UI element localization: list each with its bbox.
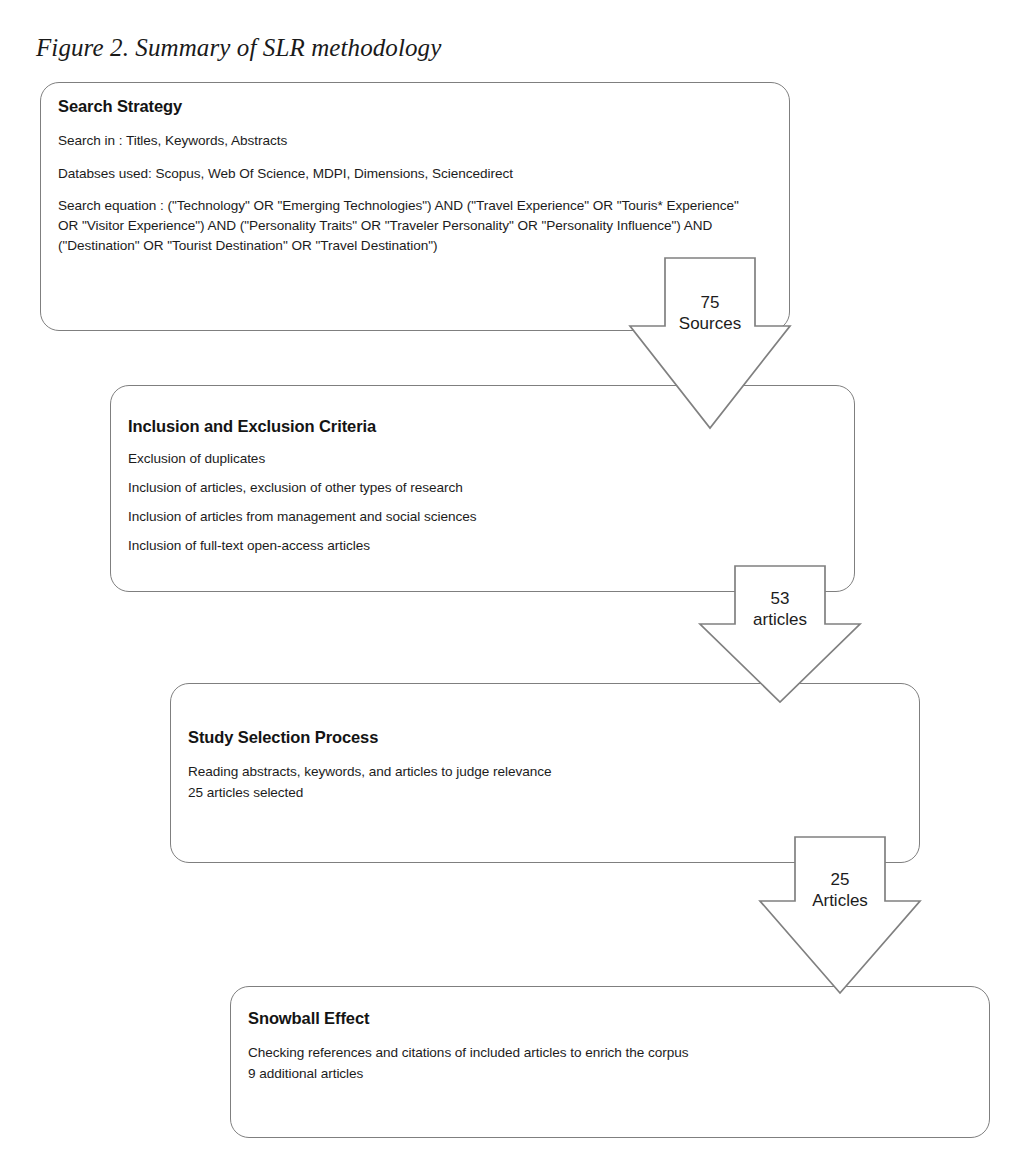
node-line-25-articles-selected: 25 articles selected <box>188 782 888 803</box>
node-snowball-effect: Snowball Effect Checking references and … <box>230 986 990 1138</box>
down-arrow-icon <box>760 837 920 995</box>
node-line-9-additional-articles: 9 additional articles <box>248 1063 968 1084</box>
node-study-selection-process: Study Selection Process Reading abstract… <box>170 683 920 863</box>
arrow-53-articles: 53 articles <box>700 566 860 704</box>
arrow-75-sources: 75 Sources <box>630 258 790 430</box>
node-line-inclusion-fulltext: Inclusion of full-text open-access artic… <box>128 538 828 553</box>
node-line-search-in: Search in : Titles, Keywords, Abstracts <box>58 131 758 151</box>
node-line-inclusion-management: Inclusion of articles from management an… <box>128 509 828 524</box>
down-arrow-icon <box>700 566 860 704</box>
node-title-study-selection-process: Study Selection Process <box>188 728 888 747</box>
node-line-inclusion-articles: Inclusion of articles, exclusion of othe… <box>128 480 828 495</box>
arrow-25-articles: 25 Articles <box>760 837 920 995</box>
figure-title: Figure 2. Summary of SLR methodology <box>36 33 441 63</box>
node-title-snowball-effect: Snowball Effect <box>248 1009 968 1028</box>
node-line-exclusion-duplicates: Exclusion of duplicates <box>128 451 828 466</box>
node-title-search-strategy: Search Strategy <box>58 97 758 116</box>
node-line-databases-used: Databses used: Scopus, Web Of Science, M… <box>58 164 758 184</box>
node-line-reading-abstracts: Reading abstracts, keywords, and article… <box>188 761 888 782</box>
node-line-checking-references: Checking references and citations of inc… <box>248 1042 968 1063</box>
slr-methodology-figure: Figure 2. Summary of SLR methodology Sea… <box>0 0 1013 1175</box>
node-line-search-equation: Search equation : ("Technology" OR "Emer… <box>58 196 758 255</box>
down-arrow-icon <box>630 258 790 430</box>
